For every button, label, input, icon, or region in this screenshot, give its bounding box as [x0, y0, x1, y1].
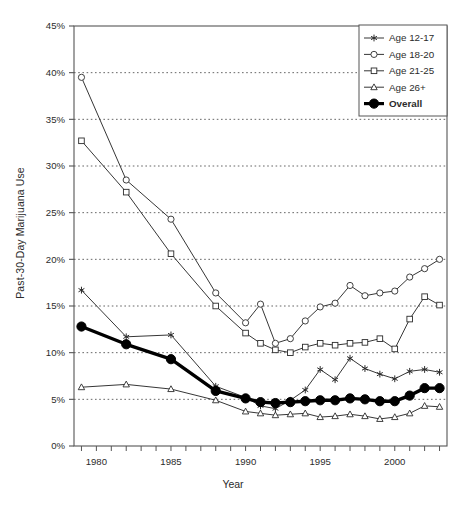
y-tick-label: 30%: [46, 160, 66, 171]
x-tick-label: 1980: [86, 456, 107, 467]
y-tick-label: 45%: [46, 20, 66, 31]
data-point-marker: [316, 396, 325, 405]
data-point-marker: [390, 397, 399, 406]
data-point-marker: [122, 340, 131, 349]
data-point-marker: [377, 336, 383, 342]
data-point-marker: [422, 266, 428, 272]
x-tick-label: 1985: [160, 456, 181, 467]
series-age-21-25: [79, 138, 443, 355]
chart-figure: Past-30-Day Marijuana Use Year 0%5%10%15…: [0, 0, 466, 505]
data-point-marker: [272, 340, 278, 346]
data-point-marker: [437, 302, 443, 308]
y-tick-label: 40%: [46, 67, 66, 78]
y-axis-title: Past-30-Day Marijuana Use: [14, 167, 26, 298]
data-point-marker: [302, 318, 308, 324]
y-tick-label: 10%: [46, 347, 66, 358]
data-point-marker: [286, 398, 295, 407]
data-point-marker: [123, 189, 129, 195]
data-point-marker: [421, 403, 427, 409]
data-point-marker: [392, 288, 398, 294]
chart-legend: Age 12-17Age 18-20Age 21-25Age 26+Overal…: [359, 25, 447, 116]
data-point-marker: [211, 386, 220, 395]
data-point-marker: [213, 290, 219, 296]
series-line: [81, 141, 439, 353]
data-point-marker: [360, 395, 369, 404]
data-point-marker: [422, 294, 428, 300]
y-tick-label: 0%: [51, 440, 65, 451]
data-point-marker: [371, 51, 377, 57]
data-point-marker: [317, 341, 323, 347]
data-point-marker: [369, 99, 378, 108]
data-point-marker: [407, 274, 413, 280]
data-point-marker: [302, 344, 308, 350]
data-point-marker: [332, 342, 338, 348]
data-point-marker: [257, 301, 263, 307]
x-tick-label: 1995: [310, 456, 331, 467]
data-point-marker: [317, 304, 323, 310]
y-tick-label: 25%: [46, 207, 66, 218]
data-point-marker: [123, 381, 129, 387]
data-point-marker: [213, 303, 219, 309]
x-tick-label: 2000: [384, 456, 405, 467]
data-point-marker: [345, 394, 354, 403]
data-point-marker: [362, 293, 368, 299]
data-point-marker: [78, 74, 84, 80]
line-chart-plot: 0%5%10%15%20%25%30%35%40%45%198019851990…: [0, 0, 466, 505]
data-point-marker: [168, 216, 174, 222]
data-point-marker: [256, 398, 265, 407]
data-point-marker: [166, 355, 175, 364]
data-point-marker: [347, 282, 353, 288]
y-tick-label: 20%: [46, 254, 66, 265]
data-point-marker: [436, 256, 442, 262]
y-axis-title-wrapper: Past-30-Day Marijuana Use: [0, 0, 40, 466]
data-point-marker: [420, 384, 429, 393]
legend-label: Overall: [389, 98, 423, 109]
data-point-marker: [123, 177, 129, 183]
data-point-marker: [301, 397, 310, 406]
legend-label: Age 26+: [389, 82, 426, 93]
data-point-marker: [271, 398, 280, 407]
data-point-marker: [241, 394, 250, 403]
data-point-marker: [258, 341, 264, 347]
data-point-marker: [168, 251, 174, 257]
y-tick-label: 15%: [46, 300, 66, 311]
legend-label: Age 18-20: [389, 49, 435, 60]
data-point-marker: [287, 336, 293, 342]
data-point-marker: [377, 290, 383, 296]
data-point-marker: [288, 350, 294, 356]
x-tick-label: 1990: [235, 456, 256, 467]
data-point-marker: [371, 68, 377, 74]
series-overall: [77, 322, 444, 408]
data-point-marker: [347, 411, 353, 417]
data-point-marker: [405, 391, 414, 400]
legend-label: Age 12-17: [389, 32, 434, 43]
y-tick-label: 35%: [46, 114, 66, 125]
data-point-marker: [302, 410, 308, 416]
data-point-marker: [362, 340, 368, 346]
data-point-marker: [77, 322, 86, 331]
data-point-marker: [273, 347, 279, 353]
data-point-marker: [242, 320, 248, 326]
data-point-marker: [392, 346, 398, 352]
data-point-marker: [375, 397, 384, 406]
series-line: [81, 327, 439, 404]
series-line: [81, 290, 439, 409]
legend-label: Age 21-25: [389, 65, 435, 76]
y-tick-label: 5%: [51, 394, 65, 405]
data-point-marker: [407, 316, 413, 322]
data-point-marker: [435, 384, 444, 393]
data-point-marker: [347, 341, 353, 347]
data-point-marker: [331, 396, 340, 405]
x-axis-title: Year: [0, 478, 466, 490]
data-point-marker: [407, 410, 413, 416]
data-point-marker: [332, 300, 338, 306]
data-point-marker: [243, 330, 249, 336]
data-point-marker: [79, 138, 85, 144]
